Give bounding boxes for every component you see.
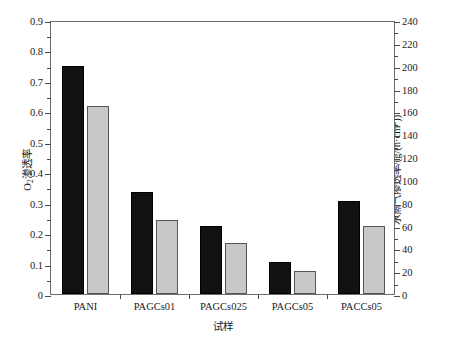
y-left-tick bbox=[45, 113, 51, 114]
y-right-tick-label: 40 bbox=[402, 245, 413, 256]
x-axis-title: 试样 bbox=[50, 318, 395, 333]
y-left-minor-tick bbox=[47, 220, 51, 221]
y-left-tick bbox=[45, 22, 51, 23]
y-right-minor-tick bbox=[394, 102, 398, 103]
bar-water-vapor-transmission-PACCs05 bbox=[363, 226, 385, 295]
y-right-tick bbox=[394, 45, 400, 46]
y-left-minor-tick bbox=[47, 129, 51, 130]
bars-layer bbox=[51, 22, 394, 294]
y-left-tick-label: 0 bbox=[38, 291, 43, 302]
plot-area: PANIPAGCs01PAGCs025PAGCs05PACCs0500.10.2… bbox=[50, 21, 395, 295]
bar-water-vapor-transmission-PAGCs05 bbox=[294, 271, 316, 294]
y-right-tick-label: 240 bbox=[402, 17, 418, 28]
y-left-tick-label: 0.7 bbox=[30, 78, 43, 89]
bar-O2-permeability-PAGCs025 bbox=[200, 226, 222, 295]
x-tick-label-PAGCs05: PAGCs05 bbox=[272, 302, 314, 313]
y-right-tick-label: 100 bbox=[402, 177, 418, 188]
y-right-tick bbox=[394, 205, 400, 206]
y-left-tick-label: 0.5 bbox=[30, 139, 43, 150]
y-left-tick-label: 0.1 bbox=[30, 260, 43, 271]
y-left-tick bbox=[45, 83, 51, 84]
y-left-tick-label: 0.9 bbox=[30, 17, 43, 28]
y-right-tick-label: 80 bbox=[402, 199, 413, 210]
y-right-tick-label: 0 bbox=[402, 291, 407, 302]
y-left-minor-tick bbox=[47, 68, 51, 69]
y-left-minor-tick bbox=[47, 250, 51, 251]
y-right-minor-tick bbox=[394, 193, 398, 194]
x-tick-label-PAGCs025: PAGCs025 bbox=[200, 302, 247, 313]
x-tick bbox=[120, 294, 121, 299]
y-right-minor-tick bbox=[394, 33, 398, 34]
y-left-minor-tick bbox=[47, 98, 51, 99]
y-left-tick bbox=[45, 296, 51, 297]
y-left-tick-label: 0.6 bbox=[30, 108, 43, 119]
y-left-tick bbox=[45, 52, 51, 53]
x-tick bbox=[258, 294, 259, 299]
y-left-minor-tick bbox=[47, 281, 51, 282]
x-tick bbox=[327, 294, 328, 299]
x-tick-label-PACCs05: PACCs05 bbox=[341, 302, 382, 313]
bar-chart: O2渗透率 水蒸气渗透率/(g/(h·cm2)) 试样 PANIPAGCs01P… bbox=[0, 0, 451, 339]
y-left-minor-tick bbox=[47, 159, 51, 160]
y-right-tick-label: 220 bbox=[402, 40, 418, 51]
y-right-tick-label: 120 bbox=[402, 154, 418, 165]
y-right-tick-label: 180 bbox=[402, 85, 418, 96]
bar-water-vapor-transmission-PANI bbox=[87, 106, 109, 294]
y-right-minor-tick bbox=[394, 285, 398, 286]
y-right-tick bbox=[394, 228, 400, 229]
y-right-tick bbox=[394, 22, 400, 23]
y-right-minor-tick bbox=[394, 79, 398, 80]
y-right-tick-label: 60 bbox=[402, 222, 413, 233]
y-right-minor-tick bbox=[394, 170, 398, 171]
y-left-tick-label: 0.4 bbox=[30, 169, 43, 180]
y-left-minor-tick bbox=[47, 189, 51, 190]
y-left-tick-label: 0.8 bbox=[30, 47, 43, 58]
y-right-minor-tick bbox=[394, 239, 398, 240]
y-right-tick bbox=[394, 182, 400, 183]
y-right-tick-label: 20 bbox=[402, 268, 413, 279]
y-right-minor-tick bbox=[394, 125, 398, 126]
y-left-tick bbox=[45, 174, 51, 175]
y-left-tick bbox=[45, 266, 51, 267]
y-left-tick-label: 0.3 bbox=[30, 199, 43, 210]
y-right-tick-label: 140 bbox=[402, 131, 418, 142]
bar-water-vapor-transmission-PAGCs01 bbox=[156, 220, 178, 294]
y-right-tick-label: 160 bbox=[402, 108, 418, 119]
bar-O2-permeability-PACCs05 bbox=[338, 201, 360, 294]
y-right-tick bbox=[394, 159, 400, 160]
y-right-tick bbox=[394, 296, 400, 297]
y-right-minor-tick bbox=[394, 262, 398, 263]
y-left-tick bbox=[45, 144, 51, 145]
bar-O2-permeability-PAGCs05 bbox=[269, 262, 291, 294]
y-left-minor-tick bbox=[47, 37, 51, 38]
y-left-tick bbox=[45, 205, 51, 206]
y-right-tick-label: 200 bbox=[402, 62, 418, 73]
y-left-tick bbox=[45, 235, 51, 236]
x-tick-label-PAGCs01: PAGCs01 bbox=[134, 302, 176, 313]
y-axis-left-title-pre: O bbox=[22, 183, 33, 191]
bar-water-vapor-transmission-PAGCs025 bbox=[225, 243, 247, 294]
y-right-minor-tick bbox=[394, 148, 398, 149]
y-left-tick-label: 0.2 bbox=[30, 230, 43, 241]
x-tick bbox=[189, 294, 190, 299]
y-right-tick bbox=[394, 91, 400, 92]
bar-O2-permeability-PAGCs01 bbox=[131, 192, 153, 294]
y-right-tick bbox=[394, 273, 400, 274]
y-right-tick bbox=[394, 250, 400, 251]
bar-O2-permeability-PANI bbox=[62, 66, 84, 294]
x-tick-label-PANI: PANI bbox=[74, 302, 98, 313]
y-right-minor-tick bbox=[394, 56, 398, 57]
y-right-tick bbox=[394, 113, 400, 114]
y-right-minor-tick bbox=[394, 216, 398, 217]
y-right-tick bbox=[394, 68, 400, 69]
y-right-tick bbox=[394, 136, 400, 137]
